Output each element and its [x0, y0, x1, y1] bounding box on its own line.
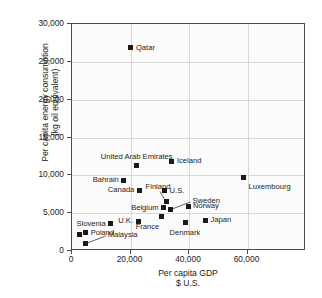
data-point-label: Belgium: [131, 204, 158, 212]
data-point-marker: [83, 230, 88, 235]
data-point-marker: [136, 219, 141, 224]
data-point-marker: [159, 214, 164, 219]
data-point-marker: [241, 175, 246, 180]
data-point-label: Japan: [211, 216, 232, 224]
data-point-marker: [121, 178, 126, 183]
data-point-label: Slovenia: [76, 220, 105, 228]
y-axis-tick: [67, 61, 71, 62]
data-point-marker: [161, 205, 166, 210]
y-axis-tick-label: 0: [4, 246, 64, 254]
scatter-plot-figure: 05,00010,00015,00020,00025,00030,000020,…: [0, 0, 322, 298]
y-axis-tick: [67, 137, 71, 138]
gridline-horizontal: [72, 138, 304, 139]
x-axis-title-line2: $ U.S.: [176, 278, 200, 288]
data-point-marker: [77, 232, 82, 237]
y-axis-tick-label: 5,000: [4, 208, 64, 216]
data-point-label: U.K.: [118, 217, 133, 225]
y-axis-tick: [67, 99, 71, 100]
y-axis-tick: [67, 212, 71, 213]
x-axis-title-line1: Per capita GDP: [158, 268, 218, 278]
data-point-label: Qatar: [136, 44, 155, 52]
data-point-marker: [108, 221, 113, 226]
data-point-marker: [128, 45, 133, 50]
data-point-label: United Arab Emirates: [101, 153, 173, 161]
x-axis-tick-label: 60,000: [217, 255, 277, 263]
data-point-label: Malaysia: [108, 231, 138, 239]
y-axis-tick: [67, 174, 71, 175]
data-point-label: Iceland: [177, 157, 202, 165]
gridline-horizontal: [72, 62, 304, 63]
x-axis-tick-label: 40,000: [158, 255, 218, 263]
data-point-marker: [137, 188, 142, 193]
y-axis-tick: [67, 23, 71, 24]
data-point-marker: [164, 199, 169, 204]
data-point-marker: [186, 204, 191, 209]
data-point-label: Finland: [146, 183, 171, 191]
data-point-label: France: [136, 223, 160, 231]
x-axis-title: Per capita GDP $ U.S.: [71, 268, 305, 289]
data-point-label: Canada: [108, 186, 135, 194]
gridline-horizontal: [72, 213, 304, 214]
data-point-marker: [183, 220, 188, 225]
data-point-label: U.S.: [170, 187, 185, 195]
data-point-marker: [83, 241, 88, 246]
data-point-marker: [134, 163, 139, 168]
y-axis-title: Per capita energy consumption (kg oil eq…: [40, 11, 61, 193]
gridline-vertical: [189, 24, 190, 249]
y-axis-title-line1: Per capita energy consumption: [40, 43, 50, 161]
data-point-label: Luxembourg: [249, 183, 291, 191]
data-point-label: Denmark: [170, 229, 201, 237]
gridline-vertical: [248, 24, 249, 249]
gridline-horizontal: [72, 100, 304, 101]
data-point-label: Bahrain: [93, 176, 119, 184]
x-axis-tick-label: 20,000: [100, 255, 160, 263]
data-point-marker: [203, 218, 208, 223]
x-axis-tick-label: 0: [41, 255, 101, 263]
plot-area: [71, 23, 305, 250]
y-axis-title-line2: (kg oil equivalent): [50, 69, 60, 136]
data-point-label: Sweden: [192, 197, 219, 205]
data-point-marker: [168, 207, 173, 212]
